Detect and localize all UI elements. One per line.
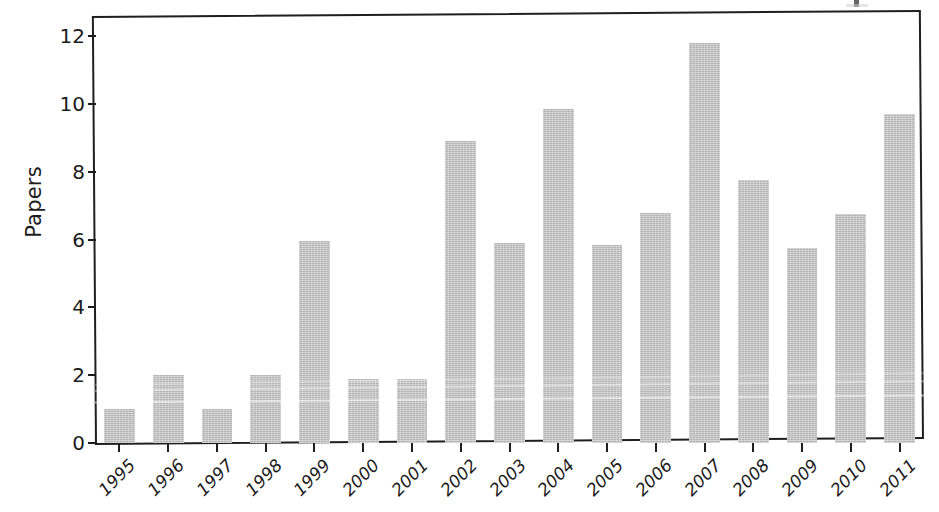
bar-2000[interactable]: [348, 379, 379, 443]
x-tick-label-2001: 2001: [385, 455, 432, 502]
y-tick-label-8: 8: [41, 160, 85, 184]
x-tick-label-1999: 1999: [288, 455, 335, 502]
x-tick-label-2008: 2008: [727, 455, 774, 502]
x-tick-label-2010: 2010: [824, 455, 871, 502]
bar-1998[interactable]: [250, 375, 281, 443]
x-tick-mark-2004: [557, 443, 559, 452]
x-tick-label-2007: 2007: [678, 455, 725, 502]
bar-2001[interactable]: [397, 379, 428, 443]
bar-2002[interactable]: [445, 141, 476, 443]
x-tick-mark-2001: [411, 443, 413, 452]
bar-chart-figure: Papers 024681012 19951996199719981999200…: [0, 0, 939, 512]
y-tick-label-0: 0: [41, 431, 85, 455]
y-axis-ticks: 024681012: [0, 0, 85, 512]
x-tick-label-2002: 2002: [434, 455, 481, 502]
y-tick-label-2: 2: [41, 363, 85, 387]
bar-series: [95, 16, 924, 443]
bar-2010[interactable]: [835, 214, 866, 443]
y-tick-label-12: 12: [41, 24, 85, 48]
bar-1996[interactable]: [153, 375, 184, 443]
x-tick-mark-2003: [509, 443, 511, 452]
bar-2004[interactable]: [543, 109, 574, 443]
x-tick-mark-1996: [167, 443, 169, 452]
x-tick-label-1998: 1998: [239, 455, 286, 502]
y-tick-label-4: 4: [41, 295, 85, 319]
bar-1995[interactable]: [104, 409, 135, 443]
x-tick-mark-2009: [801, 443, 803, 452]
x-tick-mark-2007: [704, 443, 706, 452]
x-tick-mark-2011: [899, 443, 901, 452]
x-tick-label-2005: 2005: [580, 455, 627, 502]
bar-2011[interactable]: [884, 114, 915, 443]
x-axis-ticks: 1995199619971998199920002001200220032004…: [95, 443, 924, 512]
x-tick-mark-2000: [362, 443, 364, 452]
x-tick-mark-2006: [655, 443, 657, 452]
x-tick-mark-2010: [850, 443, 852, 452]
x-tick-label-1997: 1997: [190, 455, 237, 502]
bar-2006[interactable]: [640, 213, 671, 443]
bar-2007[interactable]: [689, 43, 720, 443]
bar-2003[interactable]: [494, 243, 525, 443]
cropped-text-smudge-icon: [846, 4, 868, 7]
bar-2005[interactable]: [592, 245, 623, 443]
x-tick-mark-1997: [216, 443, 218, 452]
bar-1999[interactable]: [299, 241, 330, 443]
x-tick-mark-2008: [752, 443, 754, 452]
y-tick-label-10: 10: [41, 92, 85, 116]
x-tick-label-2006: 2006: [629, 455, 676, 502]
x-tick-label-2003: 2003: [483, 455, 530, 502]
plot-area: [95, 16, 924, 443]
x-tick-label-2009: 2009: [776, 455, 823, 502]
bar-1997[interactable]: [202, 409, 233, 443]
x-tick-label-2011: 2011: [873, 455, 920, 502]
x-tick-mark-1998: [265, 443, 267, 452]
x-tick-mark-1999: [313, 443, 315, 452]
x-tick-mark-2002: [460, 443, 462, 452]
x-tick-mark-1995: [118, 443, 120, 452]
x-tick-mark-2005: [606, 443, 608, 452]
x-tick-label-1995: 1995: [93, 455, 140, 502]
y-tick-label-6: 6: [41, 228, 85, 252]
bar-2008[interactable]: [738, 180, 769, 443]
bar-2009[interactable]: [787, 248, 818, 443]
x-tick-label-2004: 2004: [532, 455, 579, 502]
x-tick-label-1996: 1996: [142, 455, 189, 502]
x-tick-label-2000: 2000: [337, 455, 384, 502]
